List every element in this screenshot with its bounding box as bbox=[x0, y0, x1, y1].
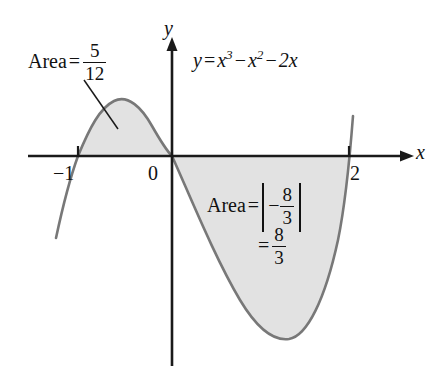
y-axis-arrowhead bbox=[167, 37, 178, 51]
annotation-upper-area-fraction: 5 12 bbox=[83, 41, 106, 84]
tick-label-zero: 0 bbox=[148, 163, 158, 183]
x-axis-label: x bbox=[416, 142, 425, 162]
absolute-value-content: − 8 3 bbox=[268, 186, 295, 229]
annotation-upper-area-word: Area bbox=[28, 50, 67, 72]
equation-minus-2: − bbox=[263, 49, 278, 71]
tick-label-two: 2 bbox=[350, 163, 360, 183]
curve-equation-label: y=x3−x2−2x bbox=[193, 48, 298, 70]
equation-term1-exponent: 3 bbox=[226, 47, 233, 62]
equation-term1-base: x bbox=[217, 49, 226, 71]
y-axis-label: y bbox=[164, 18, 173, 38]
equation-equals: = bbox=[202, 49, 217, 71]
annotation-upper-area: Area= 5 12 bbox=[28, 42, 107, 85]
equation-lhs: y bbox=[193, 49, 202, 71]
absolute-value-group: − 8 3 bbox=[261, 186, 302, 229]
fraction-numerator: 8 bbox=[272, 225, 286, 247]
annotation-lower-area-word: Area bbox=[207, 194, 246, 216]
tick-label-negative-one: −1 bbox=[53, 163, 74, 183]
fraction-denominator: 12 bbox=[83, 63, 106, 84]
annotation-lower-area-sign: − bbox=[268, 194, 279, 216]
annotation-lower-area-fraction-2: 8 3 bbox=[272, 225, 286, 268]
annotation-upper-area-equals: = bbox=[67, 50, 82, 72]
fraction-numerator: 5 bbox=[83, 41, 106, 63]
annotation-lower-area-equals-2: = bbox=[256, 234, 271, 256]
annotation-lower-area-fraction: 8 3 bbox=[280, 185, 294, 228]
annotation-lower-area-result: = 8 3 bbox=[256, 226, 287, 269]
fraction-denominator: 3 bbox=[272, 247, 286, 268]
equation-minus-1: − bbox=[233, 49, 248, 71]
annotation-lower-area: Area=− 8 3 bbox=[207, 186, 302, 229]
x-axis-arrowhead bbox=[400, 151, 414, 162]
equation-term2-base: x bbox=[248, 49, 257, 71]
area-under-curve-figure: Area= 5 12 y=x3−x2−2x Area=− 8 3 = 8 3 y… bbox=[0, 0, 438, 386]
fraction-numerator: 8 bbox=[280, 185, 294, 207]
equation-term3: 2x bbox=[279, 49, 298, 71]
annotation-lower-area-equals: = bbox=[246, 194, 261, 216]
